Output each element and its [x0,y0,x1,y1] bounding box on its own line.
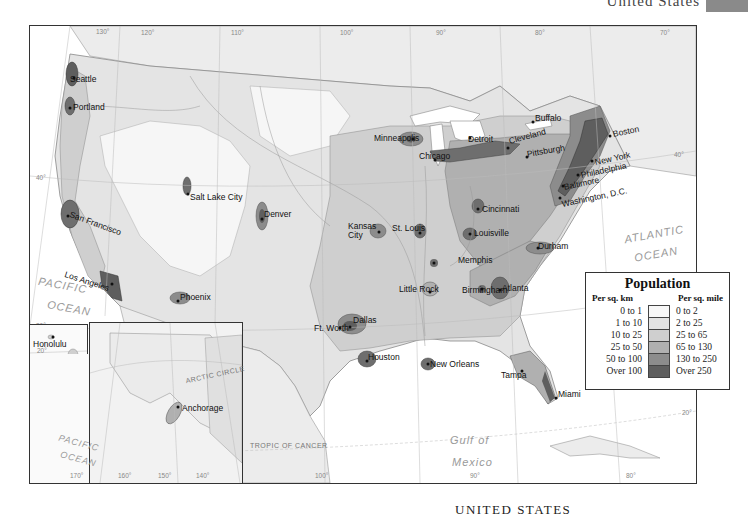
legend-header-mile: Per sq. mile [678,293,723,303]
lon-label-90: 90° [436,29,446,36]
city-label-cincinnati: Cincinnati [482,204,519,214]
legend-km-5: Over 100 [590,365,642,377]
city-label-memphis: Memphis [458,255,492,265]
water-label-gulf-of: Gulf of [450,434,489,446]
lon-label-bottom-100: 100° [315,472,328,479]
inset-lon-170: 170° [70,472,83,479]
city-label-tampa: Tampa [501,370,527,380]
page-header: United States [607,0,748,14]
legend-mile-3: 65 to 130 [676,341,717,353]
lon-label-120: 120° [141,29,154,36]
lon-label-100: 100° [340,29,353,36]
city-label-little-rock: Little Rock [399,284,439,294]
city-label-dallas: Dallas [353,315,377,325]
legend-swatch-5 [649,366,669,377]
city-label-durham: Durham [538,241,568,251]
city-label-atlanta: Atlanta [502,283,528,293]
city-label-phoenix: Phoenix [180,292,211,302]
legend-mile-0: 0 to 2 [676,305,717,317]
page-header-tab [706,0,748,12]
city-label-miami: Miami [558,389,581,399]
city-label-portland: Portland [73,102,105,112]
city-label-birmingham: Birmingham [462,285,507,295]
city-label-detroit: Detroit [468,134,493,144]
legend-km-4: 50 to 100 [590,353,642,365]
city-label-denver: Denver [264,209,291,219]
city-label-salt-lake-city: Salt Lake City [190,192,242,202]
population-legend: Population Per sq. km Per sq. mile 0 to … [585,272,730,390]
lat-label-20: 20° [682,409,692,416]
legend-swatch-1 [649,318,669,330]
inset-lon-160: 160° [118,472,131,479]
legend-mile-2: 25 to 65 [676,329,717,341]
legend-headers: Per sq. km Per sq. mile [586,293,729,303]
inset-lon-150: 150° [158,472,171,479]
tropic-of-cancer-label: TROPIC OF CANCER [250,442,328,449]
lon-label-bottom-90: 90° [470,472,480,479]
footer-title: UNITED STATES [455,502,571,518]
lat-label-40-east: 40° [674,151,684,158]
alaska-inset: Anchorage ARCTIC CIRCLE [89,322,243,484]
city-label-houston: Houston [368,352,400,362]
city-label-st-louis: St. Louis [392,223,425,233]
population-map: Seattle Portland San Francisco Los Angel… [29,25,697,484]
water-label-mexico: Mexico [452,456,493,468]
legend-swatch-3 [649,342,669,354]
legend-km-0: 0 to 1 [590,305,642,317]
page-header-title: United States [607,0,700,6]
legend-km-column: 0 to 1 1 to 10 10 to 25 25 to 50 50 to 1… [590,305,642,378]
city-label-anchorage: Anchorage [182,403,223,413]
legend-swatch-4 [649,354,669,366]
lat-label-40: 40° [36,174,46,181]
legend-km-3: 25 to 50 [590,341,642,353]
city-label-ft-worth: Ft. Worth [314,323,349,333]
hawaii-lat-20: 20° [37,347,47,354]
city-label-kansas-city: Kansas City [348,222,378,240]
lon-label-bottom-80: 80° [626,472,636,479]
legend-swatches [648,305,670,378]
lon-label-80: 80° [535,29,545,36]
legend-header-km: Per sq. km [592,293,633,303]
city-label-minneapolis: Minneapolis [374,133,419,143]
city-label-louisville: Louisville [474,228,509,238]
city-label-new-orleans: New Orleans [430,359,479,369]
city-label-chicago: Chicago [419,151,450,161]
legend-km-2: 10 to 25 [590,329,642,341]
lon-label-110: 110° [231,29,244,36]
legend-mile-1: 2 to 25 [676,317,717,329]
city-label-seattle: Seattle [70,74,96,84]
legend-swatch-0 [649,306,669,318]
lon-label-70: 70° [660,29,670,36]
legend-km-1: 1 to 10 [590,317,642,329]
legend-swatch-2 [649,330,669,342]
city-label-buffalo: Buffalo [535,113,561,123]
legend-mile-column: 0 to 2 2 to 25 25 to 65 65 to 130 130 to… [676,305,717,378]
lon-label-130: 130° [96,28,109,35]
legend-title: Population [586,276,729,292]
legend-rows: 0 to 1 1 to 10 10 to 25 25 to 50 50 to 1… [586,305,729,378]
inset-lon-140: 140° [196,472,209,479]
legend-mile-5: Over 250 [676,365,717,377]
legend-mile-4: 130 to 250 [676,353,717,365]
